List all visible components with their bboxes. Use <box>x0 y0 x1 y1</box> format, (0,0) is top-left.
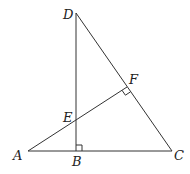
label-f: F <box>128 72 139 87</box>
label-b: B <box>71 154 82 169</box>
right-angle-mark-b <box>76 145 82 151</box>
label-d: D <box>62 7 74 22</box>
label-a: A <box>12 148 22 163</box>
label-c: C <box>174 148 184 163</box>
label-e: E <box>62 110 73 125</box>
segment-dc <box>76 13 172 151</box>
segment-af <box>28 87 127 151</box>
right-angle-mark-f <box>122 90 130 95</box>
geometry-diagram: D F E A B C <box>0 0 190 174</box>
